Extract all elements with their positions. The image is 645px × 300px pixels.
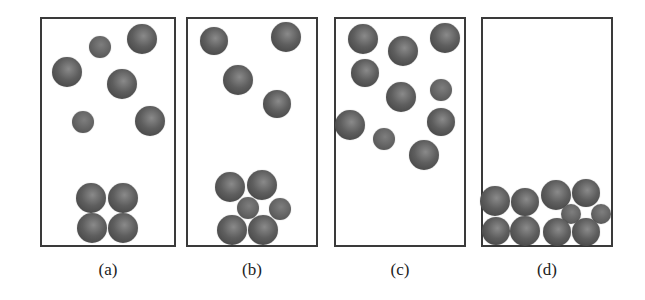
caption-b: (b) bbox=[222, 260, 282, 280]
ball-large-panel-a bbox=[108, 183, 138, 213]
ball-large-panel-a bbox=[108, 213, 138, 243]
ball-large-panel-d bbox=[482, 217, 510, 245]
ball-large-panel-a bbox=[76, 183, 106, 213]
ball-large-panel-d bbox=[480, 186, 510, 216]
ball-small-panel-a bbox=[89, 36, 111, 58]
ball-large-panel-b bbox=[248, 215, 278, 245]
ball-large-panel-d bbox=[543, 218, 571, 246]
ball-large-panel-b bbox=[247, 170, 277, 200]
caption-d: (d) bbox=[517, 260, 577, 280]
ball-large-panel-c bbox=[351, 59, 379, 87]
ball-large-panel-c bbox=[388, 36, 418, 66]
ball-large-panel-d bbox=[510, 216, 540, 246]
ball-large-panel-d bbox=[511, 188, 539, 216]
ball-large-panel-c bbox=[386, 82, 416, 112]
caption-c: (c) bbox=[370, 260, 430, 280]
ball-large-panel-d bbox=[572, 179, 600, 207]
ball-large-panel-b bbox=[217, 215, 247, 245]
ball-large-panel-b bbox=[200, 27, 228, 55]
ball-large-panel-a bbox=[127, 24, 157, 54]
ball-small-panel-c bbox=[373, 128, 395, 150]
ball-large-panel-d bbox=[572, 218, 600, 246]
ball-large-panel-c bbox=[348, 24, 378, 54]
ball-small-panel-a bbox=[72, 111, 94, 133]
ball-large-panel-b bbox=[223, 65, 253, 95]
ball-large-panel-c bbox=[409, 140, 439, 170]
ball-small-panel-b bbox=[269, 198, 291, 220]
ball-large-panel-a bbox=[135, 106, 165, 136]
caption-a: (a) bbox=[78, 260, 138, 280]
ball-large-panel-c bbox=[427, 108, 455, 136]
ball-large-panel-b bbox=[263, 90, 291, 118]
ball-large-panel-c bbox=[335, 110, 365, 140]
ball-small-panel-c bbox=[430, 79, 452, 101]
ball-large-panel-a bbox=[107, 69, 137, 99]
ball-large-panel-a bbox=[77, 213, 107, 243]
ball-large-panel-c bbox=[430, 23, 460, 53]
ball-large-panel-b bbox=[215, 172, 245, 202]
ball-large-panel-a bbox=[52, 57, 82, 87]
ball-large-panel-b bbox=[271, 22, 301, 52]
